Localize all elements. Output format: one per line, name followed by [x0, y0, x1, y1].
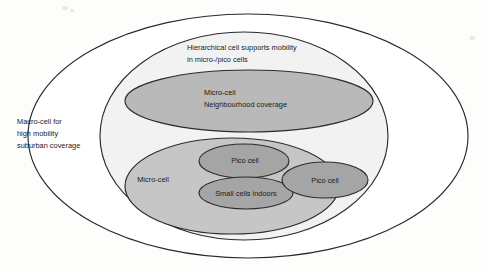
scan-artifact: [70, 9, 74, 12]
micro-cell-neighbourhood-label-line1: Micro-cell: [204, 88, 236, 97]
hierarchical-cell-label-line1: Hierarchical cell supports mobility: [187, 43, 297, 52]
micro-cell-lower-label: Micro-cell: [137, 175, 169, 184]
hierarchical-cell-label-line2: in micro-/pico cells: [187, 55, 248, 64]
pico-cell-upper-label: Pico cell: [231, 156, 259, 165]
small-cells-indoors-label: Small cells indoors: [215, 189, 277, 198]
macro-cell-label-line1: Macro-cell for: [17, 117, 62, 126]
pico-cell-right-label: Pico cell: [311, 176, 339, 185]
micro-cell-neighbourhood-label-line2: Neighbourhood coverage: [204, 100, 287, 109]
scan-artifact: [470, 36, 475, 40]
macro-cell-label-line3: suburban coverage: [17, 141, 80, 150]
diagram-canvas: Macro-cell for high mobility suburban co…: [0, 0, 488, 272]
scan-artifact: [62, 6, 68, 10]
hierarchical-cell-diagram: Macro-cell for high mobility suburban co…: [0, 0, 488, 272]
macro-cell-label-line2: high mobility: [17, 129, 58, 138]
